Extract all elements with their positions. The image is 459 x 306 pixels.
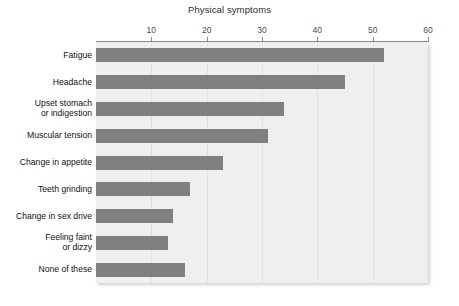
chart-title: Physical symptoms xyxy=(0,4,459,15)
bar xyxy=(96,263,185,277)
x-tick-label-20: 20 xyxy=(202,25,211,35)
bar-chart: Physical symptoms 102030405060 FatigueHe… xyxy=(0,0,459,306)
bar xyxy=(96,182,190,196)
x-tick-mark-60 xyxy=(428,37,429,41)
gridline-50 xyxy=(373,42,374,283)
x-tick-mark-40 xyxy=(317,37,318,41)
category-label: Headache xyxy=(0,77,92,87)
category-axis-labels: FatigueHeadacheUpset stomach or indigest… xyxy=(0,42,92,283)
category-label: Teeth grinding xyxy=(0,184,92,194)
bar xyxy=(96,236,168,250)
bar xyxy=(96,75,345,89)
x-tick-mark-30 xyxy=(262,37,263,41)
category-label: Change in sex drive xyxy=(0,211,92,221)
category-label: None of these xyxy=(0,264,92,274)
x-tick-label-50: 50 xyxy=(368,25,377,35)
category-label: Feeling faint or dizzy xyxy=(0,232,92,252)
plot-area xyxy=(96,42,428,283)
bar xyxy=(96,48,384,62)
x-tick-label-60: 60 xyxy=(423,25,432,35)
bar xyxy=(96,209,173,223)
plot-inner xyxy=(96,42,428,283)
category-label: Change in appetite xyxy=(0,157,92,167)
category-label: Muscular tension xyxy=(0,130,92,140)
x-tick-mark-10 xyxy=(151,37,152,41)
bar xyxy=(96,129,268,143)
x-tick-label-40: 40 xyxy=(313,25,322,35)
x-tick-mark-50 xyxy=(373,37,374,41)
x-tick-label-30: 30 xyxy=(257,25,266,35)
bar xyxy=(96,156,223,170)
bar xyxy=(96,102,284,116)
x-tick-mark-20 xyxy=(207,37,208,41)
x-tick-label-10: 10 xyxy=(147,25,156,35)
category-label: Fatigue xyxy=(0,50,92,60)
category-label: Upset stomach or indigestion xyxy=(0,98,92,118)
